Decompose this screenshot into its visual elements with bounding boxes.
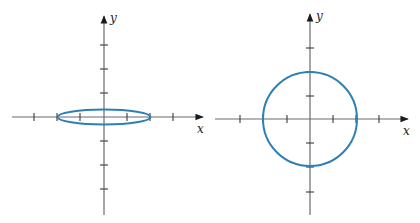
- left-plot: x y: [12, 11, 204, 215]
- figure: x y x y: [0, 0, 420, 223]
- right-plot: x y: [215, 9, 410, 215]
- left-x-label: x: [197, 122, 204, 136]
- left-y-label: y: [109, 11, 117, 25]
- right-x-label: x: [403, 124, 410, 138]
- right-y-label: y: [315, 9, 323, 23]
